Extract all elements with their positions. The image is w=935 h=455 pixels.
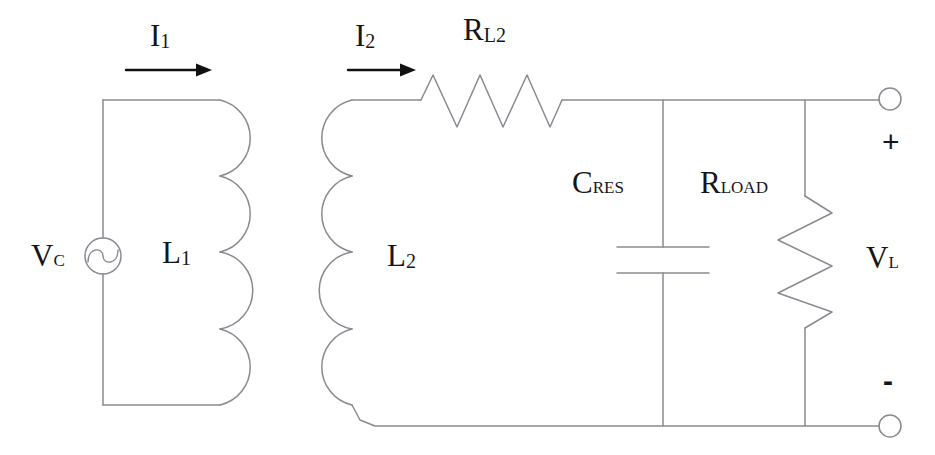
- label-resistor-rl2-base: R: [463, 12, 484, 47]
- resistor-rload-zigzag: [778, 196, 832, 328]
- label-source-voltage-base: V: [31, 238, 53, 273]
- label-inductor-l1-sub: 1: [181, 247, 191, 269]
- current-arrows: [126, 64, 416, 77]
- terminal-negative-circle: [879, 415, 901, 437]
- coil-turn-1: [220, 100, 250, 176]
- label-current-i1-base: I: [150, 18, 160, 53]
- schematic-svg: [0, 0, 935, 455]
- label-current-i1-sub: 1: [160, 30, 170, 52]
- label-current-i2-base: I: [355, 18, 365, 53]
- circuit-diagram-canvas: I1 I2 RL2 VC L1 L2 CRES RLOAD VL + -: [0, 0, 935, 455]
- label-inductor-l2-base: L: [387, 238, 406, 273]
- label-resistor-rload-sub: LOAD: [721, 178, 768, 197]
- terminal-positive-circle: [879, 88, 901, 110]
- voltage-source-sine-icon: [88, 250, 118, 262]
- terminal-positive-sign: +: [882, 127, 900, 157]
- label-resistor-rload: RLOAD: [700, 167, 768, 198]
- inductor-l1-coil: [220, 100, 253, 405]
- label-resistor-rload-base: R: [700, 165, 721, 200]
- coil-turn-3: [220, 252, 253, 329]
- label-inductor-l2: L2: [387, 240, 416, 271]
- label-inductor-l2-sub: 2: [406, 250, 416, 272]
- inductor-l2-coil: [319, 100, 352, 405]
- coil-turn-4: [322, 329, 352, 405]
- terminal-negative-sign: -: [883, 366, 893, 396]
- label-capacitor-cres-base: C: [572, 165, 593, 200]
- label-output-voltage: VL: [866, 242, 899, 273]
- label-source-voltage: VC: [31, 240, 65, 271]
- label-output-voltage-base: V: [866, 240, 888, 275]
- label-current-i2-sub: 2: [365, 30, 375, 52]
- resistor-rl2-zigzag: [421, 75, 562, 127]
- coil-turn-1: [322, 100, 352, 176]
- label-current-i1: I1: [150, 20, 171, 51]
- label-capacitor-cres: CRES: [572, 167, 624, 198]
- coil-turn-3: [319, 252, 352, 329]
- label-capacitor-cres-sub: RES: [593, 178, 624, 197]
- wire-secondary-bottom: [352, 405, 879, 426]
- arrow-i1-head: [196, 64, 212, 77]
- label-resistor-rl2: RL2: [463, 14, 506, 45]
- label-output-voltage-sub: L: [888, 253, 898, 272]
- arrow-i2-head: [400, 64, 416, 77]
- label-current-i2: I2: [355, 20, 376, 51]
- coil-turn-2: [322, 176, 352, 252]
- coil-turn-2: [220, 176, 250, 252]
- label-inductor-l1: L1: [162, 237, 191, 268]
- label-resistor-rl2-sub: L2: [484, 24, 507, 46]
- label-source-voltage-sub: C: [53, 251, 64, 270]
- label-inductor-l1-base: L: [162, 235, 181, 270]
- coil-turn-4: [220, 329, 250, 405]
